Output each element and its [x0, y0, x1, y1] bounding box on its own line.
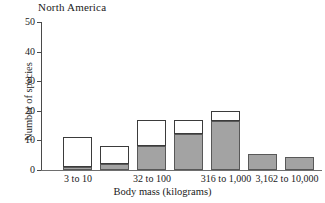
y-tick-mark — [37, 52, 41, 53]
bar — [285, 157, 314, 170]
x-tick-label-4: 3,162 to 10,000 — [256, 174, 319, 184]
bar-segment-lower — [174, 134, 203, 170]
bar-segment-lower — [248, 154, 277, 170]
x-tick-label-3: 316 to 1,000 — [201, 174, 251, 184]
y-tick-mark — [37, 81, 41, 82]
bar — [137, 120, 166, 170]
bar — [211, 111, 240, 170]
y-tick-label: 10 — [25, 135, 35, 145]
bar-segment-upper — [100, 146, 129, 164]
y-tick-label: 20 — [25, 106, 35, 116]
chart-title: North America — [38, 1, 106, 13]
bar-segment-lower — [137, 146, 166, 170]
y-tick-mark — [37, 111, 41, 112]
bar-segment-upper — [211, 111, 240, 121]
bar-segment-lower — [211, 121, 240, 170]
bar-segment-lower — [63, 167, 92, 170]
bar — [248, 154, 277, 170]
y-tick-mark — [37, 140, 41, 141]
bar — [100, 146, 129, 170]
bar-segment-upper — [63, 137, 92, 167]
bar — [174, 120, 203, 170]
bar-segment-lower — [100, 164, 129, 170]
chart-figure: North America Number of species 0 10 20 … — [0, 0, 325, 203]
bar-segment-lower — [285, 157, 314, 170]
bar-segment-upper — [174, 120, 203, 135]
plot-area: 0 10 20 30 40 50 — [41, 22, 319, 170]
y-tick-label: 50 — [25, 17, 35, 27]
bar-segment-upper — [137, 120, 166, 147]
x-tick-label-1: 3 to 10 — [64, 174, 92, 184]
y-tick-label: 30 — [25, 76, 35, 86]
y-tick-mark — [37, 170, 41, 171]
x-axis-title: Body mass (kilograms) — [0, 186, 325, 197]
x-tick-label-2: 32 to 100 — [133, 174, 171, 184]
y-tick-label: 0 — [30, 165, 35, 175]
y-tick-label: 40 — [25, 47, 35, 57]
y-tick-mark — [37, 22, 41, 23]
x-axis-line — [41, 170, 322, 171]
bar — [63, 137, 92, 170]
